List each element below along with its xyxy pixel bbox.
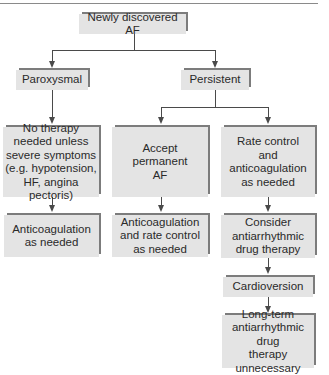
node-persistent: Persistent [181,70,249,90]
node-anticoagulation-rate-control: Anticoagulation and rate control as need… [112,215,208,257]
node-label: Newly discovered AF [79,11,186,38]
node-rate-control: Rate control and anticoagulation as need… [221,127,315,197]
arrow-to-consider-antiarrhythmic [265,205,271,212]
arrow-to-paroxysmal [49,61,55,68]
node-label: Cardioversion [233,280,304,294]
node-paroxysmal: Paroxysmal [16,70,88,90]
arrow-to-accept-permanent [158,117,164,124]
node-label: Paroxysmal [22,73,82,87]
node-cardioversion: Cardioversion [223,277,313,297]
arrow-to-rate-control [265,117,271,124]
arrow-to-anticoag-rate [158,205,164,212]
connector-root-horizontal [52,50,216,51]
node-accept-permanent-af: Accept permanent AF [112,127,208,197]
connector-persistent-down [215,90,216,107]
node-consider-antiarrhythmic: Consider antiarrhythmic drug therapy [221,215,315,258]
arrow-to-cardioversion [265,267,271,274]
node-label: Rate control and anticoagulation as need… [229,135,306,189]
node-label: Long-term antiarrhythmic drug therapy un… [222,308,314,375]
node-label: Accept permanent AF [133,142,188,183]
node-label: No therapy needed unless severe symptoms… [3,122,99,203]
node-label: Anticoagulation and rate control as need… [120,216,200,257]
node-newly-discovered-af: Newly discovered AF [79,14,186,34]
node-no-therapy: No therapy needed unless severe symptoms… [3,127,99,197]
connector-persistent-horizontal [161,107,269,108]
node-label: Consider antiarrhythmic drug therapy [232,216,304,257]
node-label: Persistent [189,73,240,87]
node-long-term-unnecessary: Long-term antiarrhythmic drug therapy un… [222,315,314,368]
arrow-to-persistent [212,61,218,68]
node-label: Anticoagulation as needed [12,223,91,250]
top-divider [0,3,318,4]
arrow-to-anticoag [49,205,55,212]
connector-paroxysmal-down [52,90,53,118]
node-anticoagulation-as-needed: Anticoagulation as needed [4,215,99,257]
